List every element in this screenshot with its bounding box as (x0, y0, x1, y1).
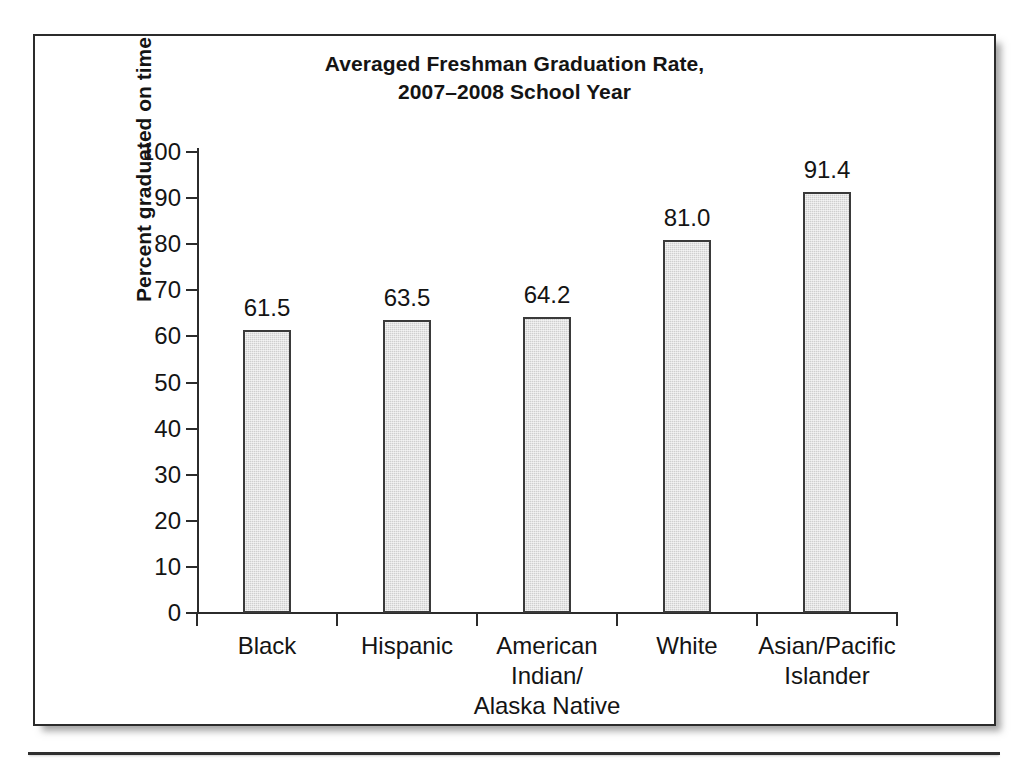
y-axis-line (197, 148, 199, 613)
y-tick-label: 20 (154, 508, 181, 532)
y-tick-label: 80 (154, 232, 181, 256)
y-tick-label: 70 (154, 278, 181, 302)
bar[interactable] (383, 320, 431, 613)
y-tick (186, 243, 197, 245)
x-category-label: White (656, 631, 717, 661)
page-rule (28, 752, 1000, 755)
bar[interactable] (243, 330, 291, 614)
y-tick (186, 335, 197, 337)
x-category-label: Hispanic (361, 631, 453, 661)
y-tick (186, 382, 197, 384)
figure-frame: Averaged Freshman Graduation Rate, 2007–… (33, 34, 996, 726)
bar-value-label: 61.5 (244, 296, 291, 320)
chart-title: Averaged Freshman Graduation Rate, 2007–… (35, 50, 994, 105)
y-tick-label: 60 (154, 324, 181, 348)
y-tick (186, 151, 197, 153)
x-tick (196, 613, 198, 626)
bar-value-label: 81.0 (664, 206, 711, 230)
y-tick-label: 90 (154, 186, 181, 210)
y-tick-label: 0 (168, 601, 181, 625)
chart-title-line-1: Averaged Freshman Graduation Rate, (35, 50, 994, 78)
x-tick (336, 613, 338, 626)
x-category-label: Asian/Pacific Islander (758, 631, 895, 691)
bar-value-label: 64.2 (524, 283, 571, 307)
y-tick (186, 428, 197, 430)
bar[interactable] (803, 192, 851, 613)
x-tick (756, 613, 758, 626)
y-tick (186, 197, 197, 199)
y-tick (186, 566, 197, 568)
bar-value-label: 63.5 (384, 286, 431, 310)
x-tick (896, 613, 898, 626)
y-tick (186, 474, 197, 476)
plot-area: 1009080706050403020100 61.563.564.281.09… (197, 152, 897, 613)
x-category-label: Black (238, 631, 297, 661)
y-tick-label: 10 (154, 554, 181, 578)
y-tick-label: 40 (154, 416, 181, 440)
y-tick (186, 520, 197, 522)
x-tick (616, 613, 618, 626)
y-tick-label: 100 (141, 140, 181, 164)
bar[interactable] (663, 240, 711, 613)
y-axis-title: Percent graduated on time (132, 268, 156, 302)
y-tick-label: 50 (154, 370, 181, 394)
bar[interactable] (523, 317, 571, 613)
y-tick (186, 289, 197, 291)
chart-title-line-2: 2007–2008 School Year (35, 78, 994, 106)
x-category-label: American Indian/ Alaska Native (474, 631, 621, 721)
x-tick (476, 613, 478, 626)
bar-value-label: 91.4 (804, 158, 851, 182)
y-tick-label: 30 (154, 462, 181, 486)
